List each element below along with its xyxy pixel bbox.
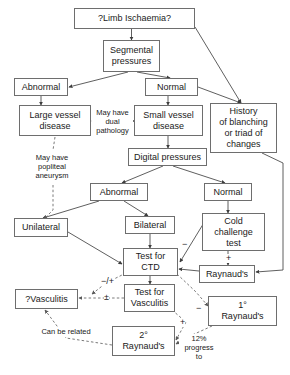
node-vasculitis-query[interactable]: ?Vasculitis	[15, 289, 78, 309]
node-normal-digital[interactable]: Normal	[204, 183, 252, 201]
node-unilateral[interactable]: Unilateral	[14, 218, 68, 237]
note-can-be-related: Can be related	[33, 327, 99, 337]
node-test-for-ctd[interactable]: Test for CTD	[123, 248, 178, 276]
node-limb-ischaemia[interactable]: ?Limb Ischaemia?	[74, 8, 195, 29]
node-secondary-raynauds[interactable]: 2° Raynaud's	[112, 326, 175, 356]
node-bilateral[interactable]: Bilateral	[125, 216, 175, 234]
node-abnormal-segmental[interactable]: Abnormal	[14, 78, 68, 96]
node-test-for-vasculitis[interactable]: Test for Vasculitis	[124, 284, 175, 312]
node-large-vessel-disease[interactable]: Large vessel disease	[19, 105, 91, 136]
note-progress-to: 12% progress to	[179, 334, 219, 364]
note-dual-pathology: May have dual pathology	[92, 108, 133, 136]
sign-primary-raynauds-negative: −	[196, 304, 201, 313]
sign-cold-challenge-positive: +	[226, 254, 231, 263]
node-small-vessel-disease[interactable]: Small vessel disease	[134, 105, 203, 136]
sign-vasculitis-plus-minus: ±	[104, 293, 109, 302]
sign-secondary-raynauds-positive: +	[180, 318, 185, 327]
sign-cold-challenge-negative: −	[182, 240, 187, 249]
node-cold-challenge-test[interactable]: Cold challenge test	[202, 213, 265, 251]
node-digital-pressures[interactable]: Digital pressures	[128, 148, 207, 166]
node-segmental-pressures[interactable]: Segmental pressures	[103, 40, 160, 72]
node-raynauds[interactable]: Raynaud's	[199, 265, 255, 283]
node-primary-raynauds[interactable]: 1° Raynaud's	[208, 296, 277, 326]
sign-ctd-negative-positive: −/+	[101, 277, 114, 286]
node-abnormal-digital[interactable]: Abnormal	[90, 183, 148, 201]
flowchart-canvas: ?Limb Ischaemia? Segmental pressures Abn…	[0, 0, 290, 375]
node-history-of-blanching[interactable]: History of blanching or triad of changes	[210, 103, 277, 153]
node-normal-segmental[interactable]: Normal	[145, 78, 198, 96]
note-popliteal-aneurysm: May have popliteal aneurysm	[26, 153, 78, 183]
